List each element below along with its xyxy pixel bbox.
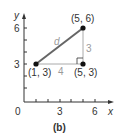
point-5-3 — [80, 61, 85, 66]
y-axis-label: y — [13, 10, 20, 21]
x-tick-label-3: 3 — [57, 106, 63, 117]
x-tick-label-6: 6 — [92, 106, 98, 117]
x-axis-arrow-icon — [108, 100, 114, 104]
origin-label: 0 — [15, 106, 21, 117]
y-tick-label-6: 6 — [14, 23, 20, 34]
point-1-3 — [33, 61, 38, 66]
y-axis-arrow-icon — [22, 13, 26, 19]
distance-diagram: y x 0 3 6 3 6 d 4 3 (1, 3) (5, 6) (5, 3)… — [0, 0, 122, 138]
horizontal-leg-label: 4 — [58, 66, 64, 77]
point-label-5-6: (5, 6) — [71, 13, 94, 24]
x-axis-label: x — [107, 106, 114, 117]
figure-caption: (b) — [53, 122, 66, 133]
y-tick-label-3: 3 — [14, 59, 20, 70]
vertical-leg-label: 3 — [86, 43, 92, 54]
point-label-5-3: (5, 3) — [74, 67, 97, 78]
hypotenuse-label: d — [54, 36, 60, 47]
point-5-6 — [80, 25, 85, 30]
point-label-1-3: (1, 3) — [28, 67, 51, 78]
